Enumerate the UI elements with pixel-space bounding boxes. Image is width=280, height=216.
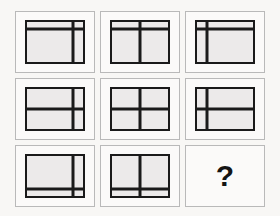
figure-rectangle xyxy=(110,154,171,197)
figure-rectangle xyxy=(25,20,86,63)
vertical-divider-line xyxy=(206,89,209,128)
matrix-cell-6 xyxy=(185,78,265,140)
matrix-cell-4 xyxy=(15,78,95,140)
figure-rectangle xyxy=(110,87,171,130)
horizontal-divider-line xyxy=(27,27,84,30)
vertical-divider-line xyxy=(138,89,141,128)
vertical-divider-line xyxy=(138,156,141,195)
figure-rectangle xyxy=(110,20,171,63)
horizontal-divider-line xyxy=(27,188,84,191)
answer-cell[interactable]: ? xyxy=(185,145,265,207)
figure-rectangle xyxy=(195,20,256,63)
figure-rectangle xyxy=(25,87,86,130)
figure-rectangle xyxy=(25,154,86,197)
matrix-cell-5 xyxy=(100,78,180,140)
horizontal-divider-line xyxy=(27,107,84,110)
matrix-puzzle-grid: ? xyxy=(15,11,265,207)
vertical-divider-line xyxy=(71,156,74,195)
vertical-divider-line xyxy=(206,22,209,61)
matrix-cell-7 xyxy=(15,145,95,207)
matrix-cell-3 xyxy=(185,11,265,73)
vertical-divider-line xyxy=(71,89,74,128)
question-mark-glyph: ? xyxy=(216,161,234,191)
matrix-cell-1 xyxy=(15,11,95,73)
vertical-divider-line xyxy=(71,22,74,61)
figure-rectangle xyxy=(195,87,256,130)
vertical-divider-line xyxy=(138,22,141,61)
matrix-cell-8 xyxy=(100,145,180,207)
matrix-cell-2 xyxy=(100,11,180,73)
